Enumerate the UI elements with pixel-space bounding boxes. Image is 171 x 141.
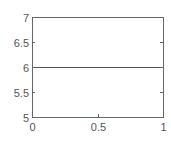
- y-tick-label: 5.5: [14, 87, 29, 99]
- y-tick-label: 6.5: [14, 37, 29, 49]
- x-tick-label: 0: [29, 121, 35, 133]
- x-tick-label: 1: [160, 121, 166, 133]
- y-tick-label: 5: [23, 112, 29, 124]
- x-axis-ticks: 00.51: [29, 114, 166, 133]
- y-tick-label: 7: [23, 12, 29, 24]
- y-tick-label: 6: [23, 62, 29, 74]
- line-chart: 55.566.57 00.51: [0, 0, 171, 141]
- x-tick-label: 0.5: [91, 121, 106, 133]
